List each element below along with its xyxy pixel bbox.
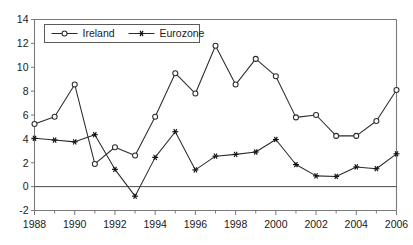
marker-ireland: [293, 115, 298, 120]
marker-eurozone: [333, 174, 339, 179]
marker-eurozone: [152, 155, 158, 160]
marker-ireland: [153, 114, 158, 119]
x-tick-label: 2000: [264, 218, 288, 230]
marker-ireland: [173, 71, 178, 76]
marker-eurozone: [172, 129, 178, 134]
marker-ireland: [92, 161, 97, 166]
legend-label-ireland: Ireland: [83, 27, 115, 39]
marker-ireland: [334, 133, 339, 138]
clipped-title-area: [0, 0, 413, 8]
x-tick-label: 1992: [103, 218, 127, 230]
y-tick-label: 12: [17, 37, 29, 49]
line-chart: -202468101214198819901992199419961998200…: [0, 0, 413, 245]
marker-eurozone: [313, 173, 319, 178]
marker-ireland: [193, 91, 198, 96]
marker-eurozone: [92, 132, 98, 137]
marker-ireland: [394, 87, 399, 92]
marker-ireland: [213, 43, 218, 48]
legend-marker-ireland: [62, 31, 67, 36]
marker-ireland: [133, 153, 138, 158]
marker-eurozone: [112, 167, 118, 172]
marker-ireland: [52, 114, 57, 119]
marker-eurozone: [353, 164, 359, 169]
marker-ireland: [273, 74, 278, 79]
y-tick-label: 6: [23, 109, 29, 121]
y-tick-label: 8: [23, 85, 29, 97]
x-tick-label: 2004: [345, 218, 369, 230]
chart-container: -202468101214198819901992199419961998200…: [0, 0, 413, 245]
x-tick-label: 2006: [385, 218, 409, 230]
y-tick-label: -2: [19, 204, 28, 216]
marker-ireland: [32, 121, 37, 126]
marker-eurozone: [132, 194, 138, 199]
marker-ireland: [253, 56, 258, 61]
marker-eurozone: [52, 137, 58, 142]
marker-ireland: [112, 145, 117, 150]
y-tick-label: 4: [23, 133, 29, 145]
x-tick-label: 1996: [184, 218, 208, 230]
legend-label-eurozone: Eurozone: [160, 27, 205, 39]
marker-ireland: [354, 133, 359, 138]
x-tick-label: 1988: [23, 218, 47, 230]
y-tick-label: 10: [17, 61, 29, 73]
series-line-ireland: [35, 46, 397, 164]
marker-eurozone: [233, 152, 239, 157]
x-tick-label: 1994: [143, 218, 167, 230]
marker-ireland: [72, 82, 77, 87]
x-tick-label: 1990: [63, 218, 87, 230]
y-tick-label: 2: [23, 157, 29, 169]
marker-ireland: [233, 82, 238, 87]
y-tick-label: 0: [23, 180, 29, 192]
x-tick-label: 1998: [224, 218, 248, 230]
y-tick-label: 14: [17, 13, 29, 25]
marker-ireland: [314, 113, 319, 118]
marker-eurozone: [72, 139, 78, 144]
marker-ireland: [374, 118, 379, 123]
x-tick-label: 2002: [304, 218, 328, 230]
